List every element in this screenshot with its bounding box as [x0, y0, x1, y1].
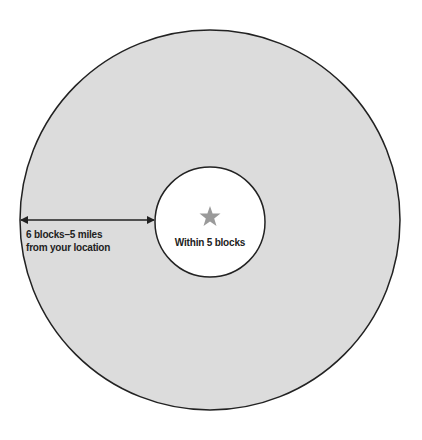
outer-zone-label-line1: 6 blocks–5 miles	[26, 228, 110, 241]
outer-zone-label: 6 blocks–5 miles from your location	[26, 228, 110, 254]
concentric-zones-diagram	[0, 0, 422, 440]
inner-zone-label: Within 5 blocks	[160, 236, 260, 249]
inner-zone-circle	[155, 167, 265, 277]
outer-zone-label-line2: from your location	[26, 241, 110, 254]
